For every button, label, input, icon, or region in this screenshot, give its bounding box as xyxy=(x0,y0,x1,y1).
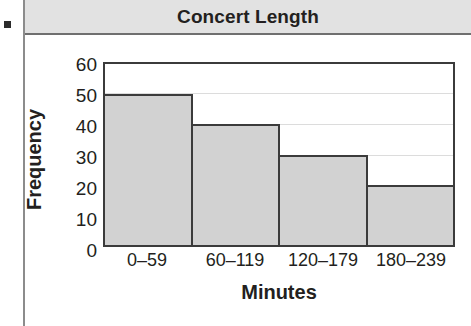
y-tick-label: 20 xyxy=(57,179,97,198)
bar xyxy=(368,185,454,245)
x-tick-label: 60–119 xyxy=(191,250,279,271)
bar xyxy=(105,94,193,245)
y-axis-title: Frequency xyxy=(23,105,46,215)
bar-series xyxy=(105,64,453,245)
bar xyxy=(280,155,368,246)
chart-area: Frequency 60 50 40 30 20 10 0 0–59 xyxy=(0,35,471,326)
y-tick-label: 0 xyxy=(57,241,97,260)
x-tick-label: 120–179 xyxy=(279,250,367,271)
plot-frame xyxy=(103,62,455,247)
x-tick-label: 180–239 xyxy=(367,250,455,271)
chart-title: Concert Length xyxy=(25,0,471,33)
y-tick-label: 30 xyxy=(57,148,97,167)
x-axis-tick-labels: 0–59 60–119 120–179 180–239 xyxy=(103,250,455,271)
x-axis-title: Minutes xyxy=(103,281,455,304)
y-tick-label: 50 xyxy=(57,86,97,105)
y-tick-label: 10 xyxy=(57,210,97,229)
x-tick-label: 0–59 xyxy=(103,250,191,271)
bar xyxy=(193,124,281,245)
y-tick-label: 60 xyxy=(57,55,97,74)
bullet-marker-icon xyxy=(4,21,11,28)
histogram-figure: Concert Length Frequency 60 50 40 30 20 … xyxy=(0,0,471,326)
y-axis-tick-labels: 60 50 40 30 20 10 0 xyxy=(53,62,97,247)
y-tick-label: 40 xyxy=(57,117,97,136)
